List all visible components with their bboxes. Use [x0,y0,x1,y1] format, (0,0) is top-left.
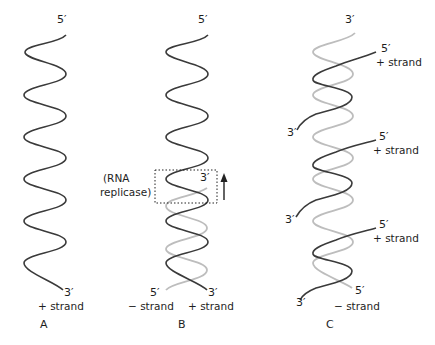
panel-a-plus-strand [24,35,66,290]
panel-c-minus-strand [313,33,355,288]
panel-c-strand1-5prime-label: 5′ [381,43,391,55]
panel-b-plus-strand-label: + strand [188,300,234,312]
panel-c-plus-strand-2 [296,140,376,217]
panel-c-label: C [326,319,334,331]
panel-c-strand3-label: + strand [373,232,419,244]
panel-c-strand2-5prime-label: 5′ [379,131,389,143]
replicase-label-line1: (RNA [103,172,129,184]
panel-c-strand3-5prime-label: 5′ [379,219,389,231]
panel-b-new-3prime-label: 3′ [200,172,210,184]
panel-b-5prime-label: 5′ [198,14,208,26]
panel-b-5prime-bottom-label: 5′ [150,287,160,299]
panel-a-5prime-label: 5′ [57,14,67,26]
panel-c-5prime-bottom-label: 5′ [355,285,365,297]
panel-b-3prime-bottom-label: 3′ [208,287,218,299]
replicase-label-line2: replicase) [100,186,151,198]
panel-c-strand2-3prime-label: 3′ [285,214,295,226]
direction-arrow-head-icon [221,173,228,182]
panel-b-label: B [178,319,186,331]
panel-c-3prime-top-label: 3′ [345,14,355,26]
panel-a-strand-label: + strand [38,300,84,312]
panel-a-label: A [40,319,48,331]
panel-b-minus-strand-label: − strand [128,300,174,312]
panel-c-strand1-3prime-label: 3′ [287,127,297,139]
panel-c-strand3-3prime-label: 3′ [296,297,306,309]
panel-c-strand1-label: + strand [376,56,422,68]
panel-c-strand2-label: + strand [373,144,419,156]
panel-b-minus-strand [166,188,207,290]
panel-c-minus-strand-label: − strand [334,300,380,312]
panel-a-3prime-label: 3′ [64,287,74,299]
panel-b-plus-strand [166,35,208,290]
